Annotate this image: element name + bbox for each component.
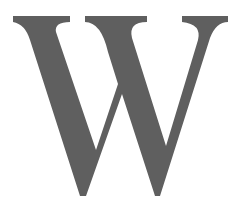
letter-w-shape [13, 16, 228, 196]
letter-w-glyph [0, 0, 250, 220]
